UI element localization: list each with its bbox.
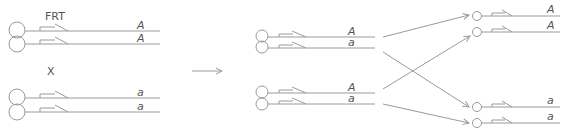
recombination-diagram: FRT X A A a a A a A a A A a a (0, 0, 567, 133)
centromere-icon (256, 41, 268, 53)
allele-label: A (546, 19, 555, 32)
frt-site-icon (492, 101, 512, 107)
allele-label: A (136, 19, 145, 32)
centromere-icon (473, 28, 482, 37)
segregation-arrow-icon (383, 52, 469, 107)
frt-site-icon (492, 10, 512, 16)
frt-label: FRT (45, 10, 65, 23)
segregation-arrow-icon (383, 104, 469, 123)
centromere-icon (256, 86, 268, 98)
centromere-icon (9, 104, 25, 120)
frt-site-icon (492, 117, 512, 123)
allele-label: A (546, 3, 555, 16)
allele-label: a (137, 100, 144, 113)
frt-site-icon (279, 87, 306, 93)
frt-site-icon (492, 26, 512, 32)
segregation-arrow-icon (383, 15, 469, 37)
frt-site-icon (279, 42, 306, 48)
allele-label: A (136, 32, 145, 45)
centromere-icon (473, 12, 482, 21)
centromere-icon (256, 98, 268, 110)
centromere-icon (256, 30, 268, 42)
frt-site-icon (279, 31, 306, 37)
cross-label: X (47, 65, 55, 78)
chromosome-pair-recombinant-bottom (256, 86, 375, 110)
chromosome-pair-recombinant-top (256, 30, 375, 53)
segregation-arrow-icon (383, 36, 470, 89)
allele-label: a (547, 110, 554, 123)
centromere-icon (9, 89, 25, 105)
frt-site-icon (40, 91, 68, 98)
frt-site-icon (40, 24, 68, 31)
allele-label: a (348, 36, 355, 49)
frt-site-icon (40, 105, 68, 112)
centromere-icon (473, 119, 482, 128)
frt-site-icon (40, 37, 68, 44)
allele-label: a (137, 86, 144, 99)
allele-label: a (547, 94, 554, 107)
centromere-icon (473, 103, 482, 112)
frt-site-icon (279, 98, 306, 104)
allele-label: a (348, 92, 355, 105)
